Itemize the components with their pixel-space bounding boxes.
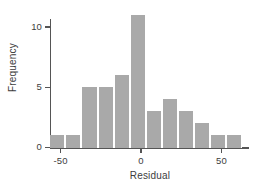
bars-layer (50, 12, 250, 148)
x-axis-tick-label: 0 (121, 155, 161, 166)
y-axis-tick-label: 10 (31, 22, 42, 32)
histogram-bar (65, 135, 81, 147)
x-axis-tick (221, 149, 223, 154)
x-axis-label: Residual (50, 170, 250, 181)
histogram-bar (130, 15, 146, 148)
x-axis-tick-label: -50 (41, 155, 81, 166)
y-axis-tick (45, 26, 50, 28)
histogram-figure: 0510-50050 Residual Frequency (0, 0, 265, 186)
y-axis-tick (45, 87, 50, 89)
histogram-bar (194, 123, 210, 147)
histogram-bar (162, 99, 178, 147)
y-axis-label: Frequency (7, 22, 18, 114)
y-axis-tick-label: 0 (37, 142, 42, 152)
y-axis-tick (45, 147, 50, 149)
y-axis-tick-label: 5 (37, 82, 42, 92)
histogram-bar (114, 75, 130, 147)
x-axis-tick (140, 149, 142, 154)
histogram-bar (146, 111, 162, 147)
x-axis-tick-label: 50 (202, 155, 242, 166)
histogram-bar (210, 135, 226, 147)
histogram-bar (178, 111, 194, 147)
histogram-bar (49, 135, 65, 147)
histogram-bar (226, 135, 242, 147)
histogram-bar (98, 87, 114, 147)
histogram-bar (81, 87, 97, 147)
x-axis-tick (60, 149, 62, 154)
